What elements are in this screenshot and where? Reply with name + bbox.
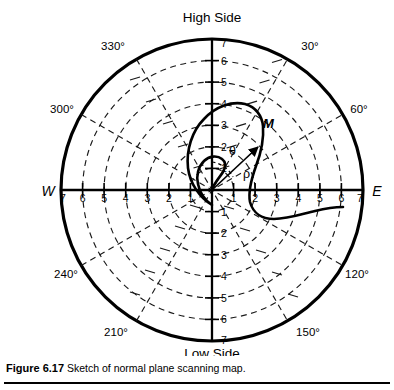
rlabel-right-2: 2 — [252, 192, 258, 204]
radial-labels-up: 1 2 3 4 5 6 7 — [221, 37, 227, 174]
spoke-tick-d5 — [288, 294, 298, 297]
angle-label-300: 300° — [50, 103, 74, 115]
rlabel-up-2: 2 — [221, 141, 227, 153]
rlabel-left-5: 5 — [101, 192, 107, 204]
rlabel-right-6: 6 — [338, 192, 344, 204]
spoke-tick-b5 — [130, 77, 140, 80]
figure-container: High Side Low Side W E 330° 30° 300° 60°… — [0, 0, 394, 390]
caption-divider-rule — [4, 382, 390, 384]
rlabel-down-4: 4 — [221, 270, 227, 282]
rlabel-down-3: 3 — [221, 249, 227, 261]
rlabel-down-1: 1 — [221, 206, 227, 218]
rlabel-down-5: 5 — [221, 292, 227, 304]
rlabel-left-1: 1 — [187, 192, 193, 204]
rlabel-down-7: 7 — [221, 334, 227, 346]
label-low-side: Low Side — [184, 346, 240, 356]
label-high-side: High Side — [183, 10, 242, 25]
rlabel-down-6: 6 — [221, 313, 227, 325]
rlabel-right-3: 3 — [274, 192, 280, 204]
rlabel-up-5: 5 — [221, 76, 227, 88]
angle-label-120: 120° — [345, 268, 369, 280]
caption-label: Figure 6.17 — [6, 362, 64, 374]
rlabel-left-2: 2 — [166, 192, 172, 204]
angle-label-60: 60° — [350, 103, 367, 115]
rlabel-up-1: 1 — [221, 162, 227, 174]
annotation-point-m: M — [263, 116, 275, 131]
polar-scanning-map-chart: High Side Low Side W E 330° 30° 300° 60°… — [0, 0, 394, 356]
spoke-ring-ticks — [130, 60, 298, 298]
rlabel-right-4: 4 — [295, 192, 301, 204]
radial-labels-down: 1 2 3 4 5 6 7 — [221, 206, 227, 347]
rlabel-left-7: 7 — [60, 192, 66, 204]
angle-label-30: 30° — [301, 40, 318, 52]
rlabel-up-3: 3 — [221, 119, 227, 131]
spoke-tick-c1 — [190, 205, 200, 208]
rlabel-left-4: 4 — [123, 192, 129, 204]
rlabel-right-1: 1 — [231, 192, 237, 204]
rlabel-up-4: 4 — [221, 98, 227, 110]
rlabel-down-2: 2 — [221, 227, 227, 239]
angle-label-150: 150° — [296, 326, 320, 338]
spoke-tick-c3 — [160, 248, 170, 251]
rlabel-left-3: 3 — [144, 192, 150, 204]
angle-label-240: 240° — [54, 268, 78, 280]
rlabel-up-7: 7 — [221, 37, 227, 49]
rlabel-right-7: 7 — [357, 192, 363, 204]
spoke-tick-d3 — [256, 250, 266, 253]
figure-caption: Figure 6.17 Sketch of normal plane scann… — [6, 362, 388, 375]
spoke-tick-c4 — [145, 270, 155, 273]
radial-labels-left: 1 2 3 4 5 6 7 — [60, 192, 193, 204]
spoke-tick-a3 — [236, 124, 246, 127]
angle-label-210: 210° — [104, 326, 128, 338]
annotation-theta: θ — [229, 144, 236, 158]
annotation-rho: ρ — [243, 167, 250, 181]
rlabel-up-6: 6 — [221, 55, 227, 67]
label-east: E — [372, 183, 382, 199]
rlabel-right-5: 5 — [317, 192, 323, 204]
angle-label-330: 330° — [101, 40, 125, 52]
label-west: W — [41, 183, 56, 199]
spoke-tick-b3 — [163, 121, 173, 124]
spoke-tick-c2 — [175, 226, 185, 229]
spoke-tick-d2 — [240, 228, 250, 231]
caption-text: Sketch of normal plane scanning map. — [67, 362, 246, 374]
spoke-tick-a6 — [272, 60, 282, 63]
spoke-tick-a4 — [247, 101, 257, 104]
rlabel-left-6: 6 — [80, 192, 86, 204]
spoke-tick-a5 — [260, 80, 270, 83]
